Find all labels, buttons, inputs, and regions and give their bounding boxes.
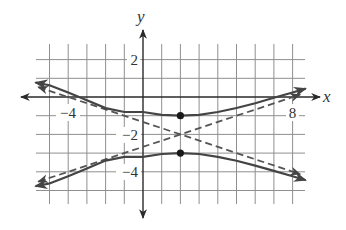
hyperbola-graph: −4 8 2 −2 −4 x y [0, 0, 346, 230]
vertex-upper-point [177, 112, 184, 119]
x-tick-label-neg4: −4 [60, 105, 76, 121]
vertex-lower-point [177, 150, 184, 157]
x-axis-label: x [322, 87, 331, 106]
grid-lines [36, 44, 305, 204]
y-tick-label-2: 2 [131, 52, 139, 68]
y-tick-label-neg2: −2 [122, 127, 138, 143]
asymptote-negative-slope [38, 87, 300, 174]
x-tick-label-8: 8 [289, 105, 297, 121]
y-axis-label: y [135, 7, 145, 26]
y-tick-label-neg4: −4 [122, 164, 138, 180]
